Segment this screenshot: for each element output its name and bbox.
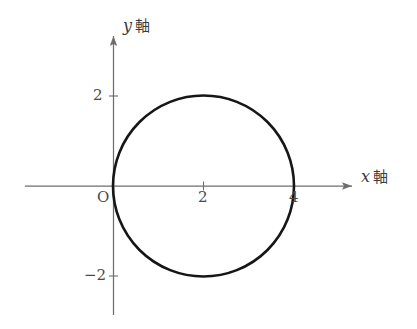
origin-label: O [97,190,109,205]
y-tick-label-2: 2 [93,88,103,103]
y-axis-label: y軸 [123,18,150,34]
x-tick-label-2: 2 [198,190,208,205]
x-tick-label-4: 4 [289,190,299,205]
figure-canvas: y軸 x軸 2 −2 2 4 O [0,0,417,329]
x-axis-label-word: 軸 [373,168,388,186]
y-axis-label-word: 軸 [135,17,150,35]
x-axis-label-variable: x [361,167,370,186]
x-axis-label: x軸 [361,169,388,185]
coordinate-plot [0,0,417,329]
y-tick-label-minus-2: −2 [84,268,106,283]
y-axis-label-variable: y [123,16,132,35]
